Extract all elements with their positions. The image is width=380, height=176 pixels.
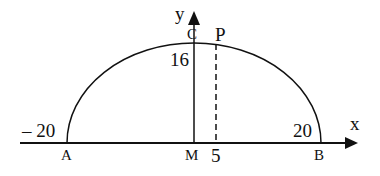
point-c-label: C <box>187 27 197 42</box>
y-axis-arrow-icon <box>188 11 200 25</box>
value-20-label: 20 <box>293 121 312 140</box>
diagram: y x C P 16 – 20 20 A M 5 B <box>0 0 380 176</box>
point-b-label: B <box>314 148 324 163</box>
point-a-label: A <box>61 148 72 163</box>
point-p-label: P <box>215 25 226 44</box>
x-axis-label: x <box>350 114 360 133</box>
y-axis-label: y <box>175 4 185 23</box>
value-16-label: 16 <box>170 50 189 69</box>
point-m-label: M <box>185 148 198 163</box>
value-neg20-label: – 20 <box>22 121 55 140</box>
x-axis-arrow-icon <box>345 137 358 149</box>
value-5-label: 5 <box>211 146 221 165</box>
